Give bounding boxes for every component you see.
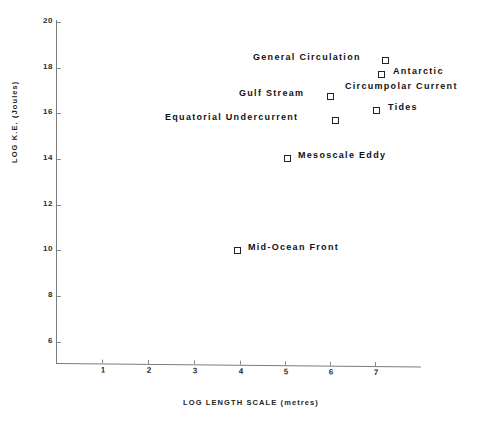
data-marker-mid-ocean-front bbox=[234, 247, 241, 254]
data-marker-general-circulation bbox=[382, 57, 389, 64]
y-tick-label-6: 6 bbox=[48, 336, 53, 345]
y-tick-label-8: 8 bbox=[48, 290, 53, 299]
x-tick-label-4: 4 bbox=[236, 367, 246, 376]
y-tick-label-14: 14 bbox=[43, 153, 53, 162]
data-marker-equatorial-undercurrent bbox=[332, 117, 339, 124]
data-label-antarctic-line1: Antarctic bbox=[393, 65, 444, 77]
x-tick-label-7: 7 bbox=[371, 368, 381, 377]
y-tick-14: 14 bbox=[57, 159, 61, 160]
y-axis-title: LOG K.E. (Joules) bbox=[10, 3, 19, 163]
y-axis-line bbox=[56, 20, 57, 364]
x-axis-line: 1 2 3 4 5 6 7 bbox=[56, 363, 421, 368]
x-axis-title: LOG LENGTH SCALE (metres) bbox=[0, 398, 502, 407]
y-tick-18: 18 bbox=[57, 68, 61, 69]
x-tick-1: 1 bbox=[102, 359, 103, 363]
x-tick-label-6: 6 bbox=[326, 368, 336, 377]
data-label-general-circulation: General Circulation bbox=[253, 51, 361, 63]
y-tick-label-10: 10 bbox=[43, 244, 53, 253]
data-label-mesoscale-eddy: Mesoscale Eddy bbox=[298, 149, 386, 161]
y-tick-label-20: 20 bbox=[43, 16, 53, 25]
x-tick-label-2: 2 bbox=[144, 366, 154, 375]
data-label-antarctic-line2: Circumpolar Current bbox=[345, 80, 458, 92]
y-tick-16: 16 bbox=[57, 113, 61, 114]
scatter-chart: 20 18 16 14 12 10 8 6 1 2 3 4 5 bbox=[0, 0, 502, 421]
y-tick-label-16: 16 bbox=[43, 107, 53, 116]
data-marker-antarctic-circumpolar-current bbox=[378, 71, 385, 78]
x-tick-7: 7 bbox=[375, 362, 376, 366]
x-tick-label-1: 1 bbox=[98, 365, 108, 374]
data-label-mid-ocean-front: Mid-Ocean Front bbox=[248, 241, 339, 253]
y-tick-10: 10 bbox=[57, 250, 61, 251]
x-tick-2: 2 bbox=[148, 360, 149, 364]
x-tick-label-3: 3 bbox=[190, 366, 200, 375]
y-tick-6: 6 bbox=[57, 342, 61, 343]
data-marker-tides bbox=[373, 107, 380, 114]
data-marker-gulf-stream bbox=[327, 93, 334, 100]
x-tick-4: 4 bbox=[240, 361, 241, 365]
y-tick-8: 8 bbox=[57, 296, 61, 297]
x-tick-3: 3 bbox=[194, 360, 195, 364]
x-tick-label-5: 5 bbox=[281, 367, 291, 376]
data-label-tides: Tides bbox=[388, 101, 418, 113]
x-tick-5: 5 bbox=[285, 361, 286, 365]
y-tick-label-12: 12 bbox=[43, 199, 53, 208]
data-label-gulf-stream: Gulf Stream bbox=[239, 87, 304, 99]
y-tick-label-18: 18 bbox=[43, 62, 53, 71]
x-tick-6: 6 bbox=[330, 362, 331, 366]
y-tick-20: 20 bbox=[57, 22, 61, 23]
data-marker-mesoscale-eddy bbox=[284, 155, 291, 162]
y-tick-12: 12 bbox=[57, 205, 61, 206]
data-label-equatorial-undercurrent: Equatorial Undercurrent bbox=[165, 111, 298, 123]
